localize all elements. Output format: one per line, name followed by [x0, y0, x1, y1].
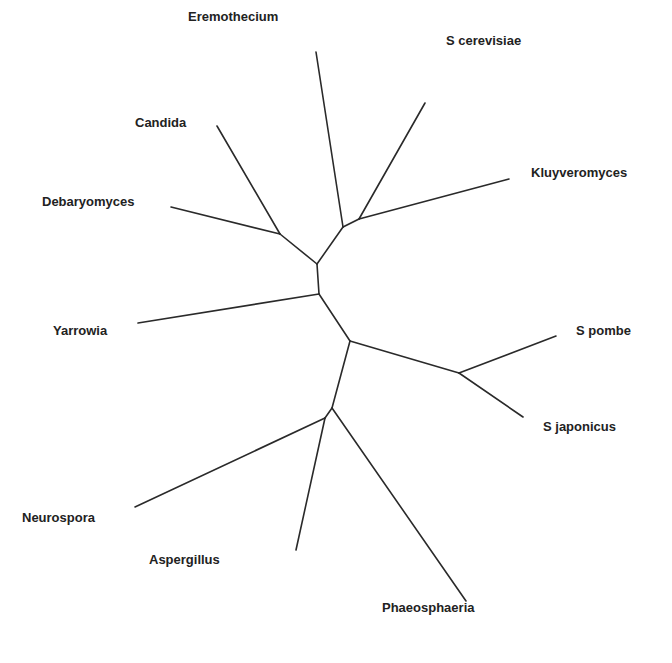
branch-eremothecium [316, 52, 343, 227]
branch-s-cerevisiae [359, 103, 425, 219]
branch-neurospora [135, 418, 325, 507]
taxon-label-yarrowia: Yarrowia [53, 324, 107, 337]
branch-saccharomycotina-internal [317, 264, 319, 294]
branch-s-pombe [459, 336, 556, 373]
taxon-label-s-cerevisiae: S cerevisiae [446, 34, 521, 47]
taxon-label-kluyveromyces: Kluyveromyces [531, 166, 627, 179]
taxon-label-s-pombe: S pombe [576, 324, 631, 337]
branch-yarrowia [138, 294, 319, 323]
branch-root-internal [319, 294, 350, 341]
branch-s-japonicus [459, 373, 523, 417]
taxon-label-debaryomyces: Debaryomyces [42, 195, 135, 208]
taxon-label-candida: Candida [135, 116, 186, 129]
branch-schizo-internal [350, 341, 459, 373]
branch-phaeosphaeria [332, 408, 466, 601]
branch-candida [217, 126, 280, 234]
branch-saccharomycetaceae-internal [317, 227, 343, 264]
branch-sc-kl-internal [343, 219, 359, 227]
taxon-label-aspergillus: Aspergillus [149, 553, 220, 566]
branch-na-internal [325, 408, 332, 418]
branch-cd-internal [280, 234, 317, 264]
branch-aspergillus [296, 418, 325, 550]
taxon-label-eremothecium: Eremothecium [188, 10, 278, 23]
taxon-label-phaeosphaeria: Phaeosphaeria [382, 601, 475, 614]
branch-debaryomyces [171, 207, 280, 234]
branch-kluyveromyces [359, 179, 509, 219]
taxon-label-neurospora: Neurospora [22, 511, 95, 524]
taxon-label-s-japonicus: S japonicus [543, 420, 616, 433]
branch-pezizo-internal [332, 341, 350, 408]
